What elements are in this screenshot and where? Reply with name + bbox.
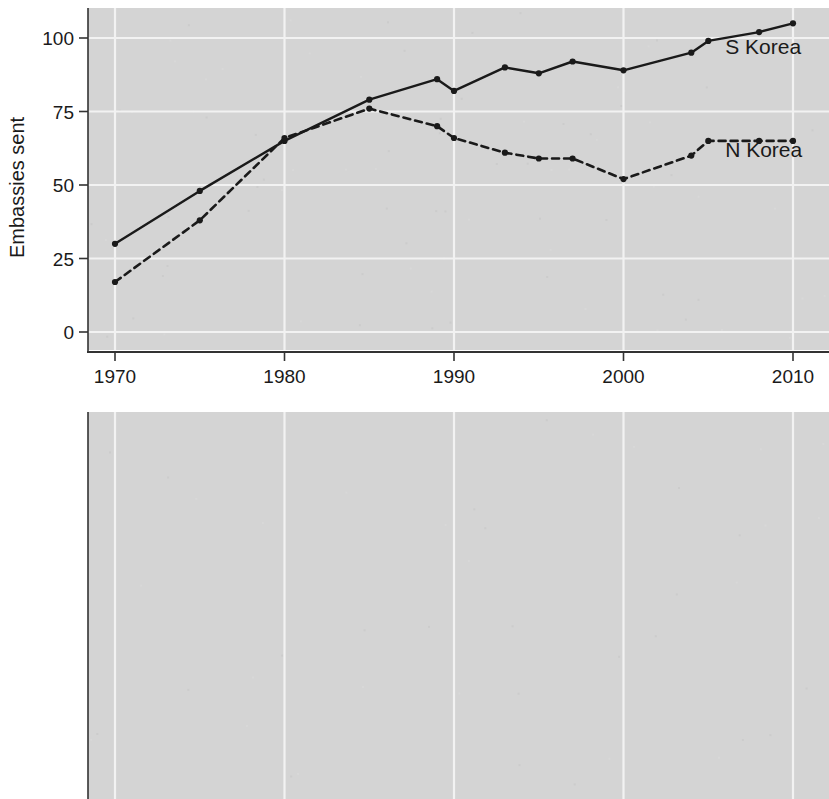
data-point — [620, 176, 626, 182]
data-point — [688, 153, 694, 159]
x-axis-tick-label: 2010 — [772, 366, 814, 387]
y-axis-tick-label: 100 — [42, 28, 74, 49]
data-point — [688, 50, 694, 56]
data-point — [197, 188, 203, 194]
data-point — [536, 155, 542, 161]
panel-embassies-received: Embassies received 025507510019701980199… — [0, 400, 829, 799]
data-point — [112, 279, 118, 285]
y-axis-tick-label: 0 — [63, 322, 74, 343]
x-axis-tick-label: 2000 — [602, 366, 644, 387]
data-point — [502, 150, 508, 156]
x-axis-tick-label: 1990 — [433, 366, 475, 387]
data-point — [112, 241, 118, 247]
x-axis-tick-label: 1970 — [94, 366, 136, 387]
data-point — [366, 106, 372, 112]
data-point — [197, 217, 203, 223]
panel-background — [88, 8, 829, 350]
panel-background — [88, 412, 829, 799]
y-axis-tick-label: 50 — [53, 175, 74, 196]
data-point — [570, 58, 576, 64]
data-point — [434, 76, 440, 82]
data-point — [570, 155, 576, 161]
data-point — [790, 20, 796, 26]
data-point — [451, 88, 457, 94]
series-label-n-korea: N Korea — [725, 138, 802, 161]
data-point — [620, 67, 626, 73]
data-point — [536, 70, 542, 76]
panel-embassies-sent: Embassies sent 0255075100197019801990200… — [0, 0, 829, 400]
plot-area-embassies-received: 025507510019701980199020002010S KoreaN K… — [0, 400, 829, 799]
series-label-s-korea: S Korea — [725, 35, 801, 58]
data-point — [705, 138, 711, 144]
data-point — [705, 38, 711, 44]
data-point — [451, 135, 457, 141]
data-point — [502, 64, 508, 70]
data-point — [366, 97, 372, 103]
y-axis-tick-label: 25 — [53, 249, 74, 270]
x-axis-tick-label: 1980 — [263, 366, 305, 387]
plot-area-embassies-sent: 025507510019701980199020002010S KoreaN K… — [0, 0, 829, 400]
data-point — [434, 123, 440, 129]
data-point — [281, 135, 287, 141]
y-axis-tick-label: 75 — [53, 102, 74, 123]
figure-root: Embassies sent 0255075100197019801990200… — [0, 0, 829, 799]
